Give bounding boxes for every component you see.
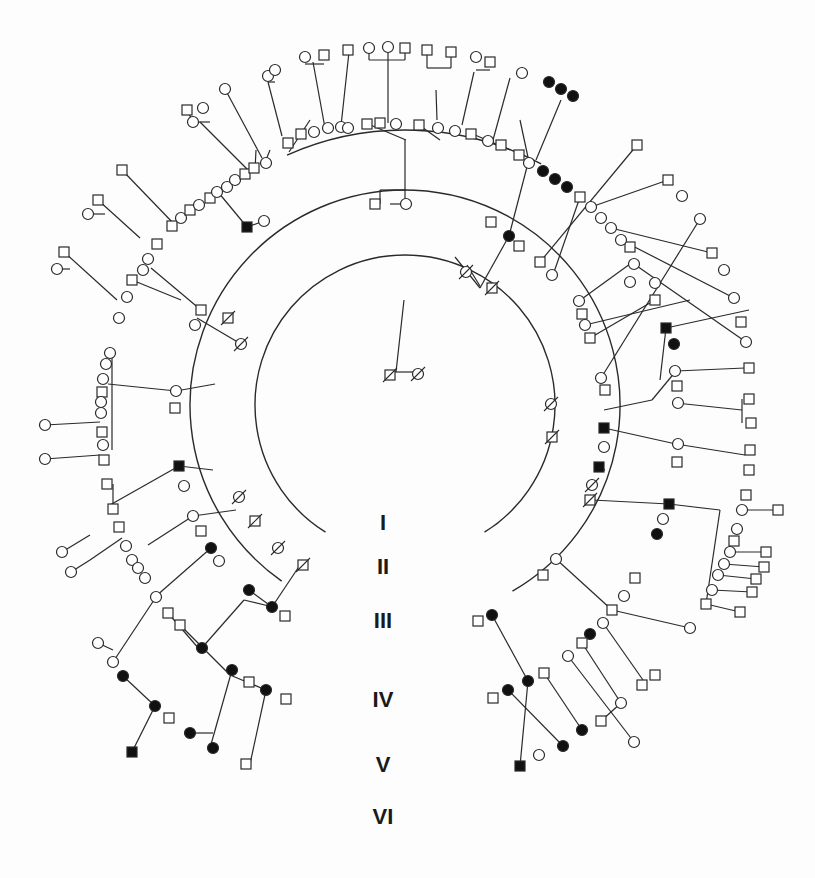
female-unaffected-symbol [517,68,528,79]
female-unaffected-symbol [198,103,209,114]
female-affected-symbol [568,91,579,102]
lineage-line [148,516,193,545]
lineage-line [341,52,349,126]
lineage-line [591,180,668,207]
male-unaffected-symbol [535,257,545,267]
female-unaffected-symbol [719,265,730,276]
lineage-line [660,328,666,380]
female-unaffected-symbol [598,618,609,629]
male-unaffected-symbol [514,150,524,160]
female-unaffected-symbol [707,585,718,596]
female-affected-symbol [504,231,515,242]
lineage-line [64,252,117,300]
female-unaffected-symbol [673,398,684,409]
male-unaffected-symbol [751,574,761,584]
female-affected-symbol [267,602,278,613]
female-unaffected-symbol [96,397,107,408]
female-unaffected-symbol [596,373,607,384]
female-unaffected-symbol [650,278,661,289]
male-unaffected-symbol [362,119,372,129]
female-unaffected-symbol [670,366,681,377]
male-unaffected-symbol [152,239,162,249]
female-unaffected-symbol [450,126,461,137]
female-unaffected-symbol [93,638,104,649]
male-unaffected-symbol [759,562,769,572]
male-affected-symbol [661,323,671,333]
lineage-line [396,300,404,372]
lineage-line [132,706,155,752]
male-unaffected-symbol [650,670,660,680]
female-affected-symbol [487,610,498,621]
female-unaffected-symbol [57,547,68,558]
female-unaffected-symbol [524,158,535,169]
female-unaffected-symbol [596,213,607,224]
lineage-line [590,300,655,338]
male-unaffected-symbol [108,504,118,514]
male-unaffected-symbol [607,605,617,615]
female-unaffected-symbol [105,348,116,359]
female-unaffected-symbol [551,554,562,565]
male-unaffected-symbol [735,607,745,617]
lineage-line [592,500,669,504]
female-unaffected-symbol [619,591,630,602]
lineage-line [676,444,745,455]
female-unaffected-symbol [140,573,151,584]
female-unaffected-symbol [364,43,375,54]
female-unaffected-symbol [138,265,149,276]
lineage-line [676,403,742,410]
male-unaffected-symbol [596,716,606,726]
male-unaffected-symbol [632,140,642,150]
female-unaffected-symbol [629,259,640,270]
male-unaffected-symbol [170,403,180,413]
female-unaffected-symbol [194,200,205,211]
male-unaffected-symbol [630,573,640,583]
female-unaffected-symbol [433,123,444,134]
female-unaffected-symbol [230,175,241,186]
female-unaffected-symbol [713,570,724,581]
male-affected-symbol [242,222,252,232]
male-unaffected-symbol [93,195,103,205]
lineage-line [200,122,250,172]
female-unaffected-symbol [343,123,354,134]
lineage-line [612,610,690,628]
female-unaffected-symbol [83,209,94,220]
female-unaffected-symbol [179,481,190,492]
female-unaffected-symbol [40,454,51,465]
female-affected-symbol [558,741,569,752]
lineage-line [123,676,155,706]
male-unaffected-symbol [175,620,185,630]
male-unaffected-symbol [400,43,410,53]
male-unaffected-symbol [164,713,174,723]
female-affected-symbol [544,77,555,88]
lineage-line [676,368,745,371]
male-unaffected-symbol [650,295,660,305]
female-unaffected-symbol [220,84,231,95]
lineage-line [210,670,232,748]
lineage-line [90,538,122,560]
male-unaffected-symbol [600,385,610,395]
lineage-line [582,643,621,703]
generation-label: I [380,510,386,536]
male-affected-symbol [594,462,604,472]
male-unaffected-symbol [761,547,771,557]
lineage-line [604,428,676,444]
female-unaffected-symbol [96,408,107,419]
female-unaffected-symbol [625,277,636,288]
male-unaffected-symbol [196,305,206,315]
female-unaffected-symbol [685,623,696,634]
lineage-line [132,280,181,300]
male-unaffected-symbol [422,45,432,55]
female-unaffected-symbol [114,313,125,324]
lineage-line [151,268,201,310]
male-unaffected-symbol [370,199,380,209]
male-unaffected-symbol [486,217,496,227]
male-unaffected-symbol [701,599,711,609]
female-unaffected-symbol [471,52,482,63]
female-unaffected-symbol [66,567,77,578]
generation-label: V [376,752,391,778]
lineage-line [200,600,244,650]
male-unaffected-symbol [747,587,757,597]
male-unaffected-symbol [539,668,549,678]
female-unaffected-symbol [300,52,311,63]
male-unaffected-symbol [485,57,495,67]
